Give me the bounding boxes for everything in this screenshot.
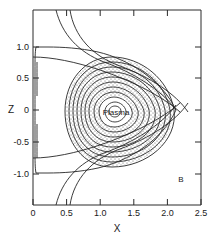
x-axis-title: X xyxy=(114,223,121,234)
x-ticklabel-5: 2.5 xyxy=(195,208,208,218)
x-ticklabel-3: 1.5 xyxy=(128,208,141,218)
y-ticklabel-3: 0.5 xyxy=(16,73,29,83)
flux-surface-figure: Plasma B xyxy=(0,0,218,239)
x-ticklabel-1: 0.5 xyxy=(60,208,73,218)
plot-canvas: Plasma B xyxy=(0,0,218,239)
y-axis-title: Z xyxy=(8,104,14,115)
y-ticklabel-4: 1.0 xyxy=(16,42,29,52)
x-ticklabel-2: 1.0 xyxy=(94,208,107,218)
y-ticklabel-0: -1.0 xyxy=(13,169,29,179)
y-ticklabel-2: 0 xyxy=(24,105,29,115)
x-ticklabel-4: 2.0 xyxy=(161,208,174,218)
x-ticklabel-0: 0 xyxy=(30,208,35,218)
panel-label-b: B xyxy=(178,175,183,184)
plasma-label: Plasma xyxy=(103,108,130,117)
y-ticklabel-1: -0.5 xyxy=(13,137,29,147)
